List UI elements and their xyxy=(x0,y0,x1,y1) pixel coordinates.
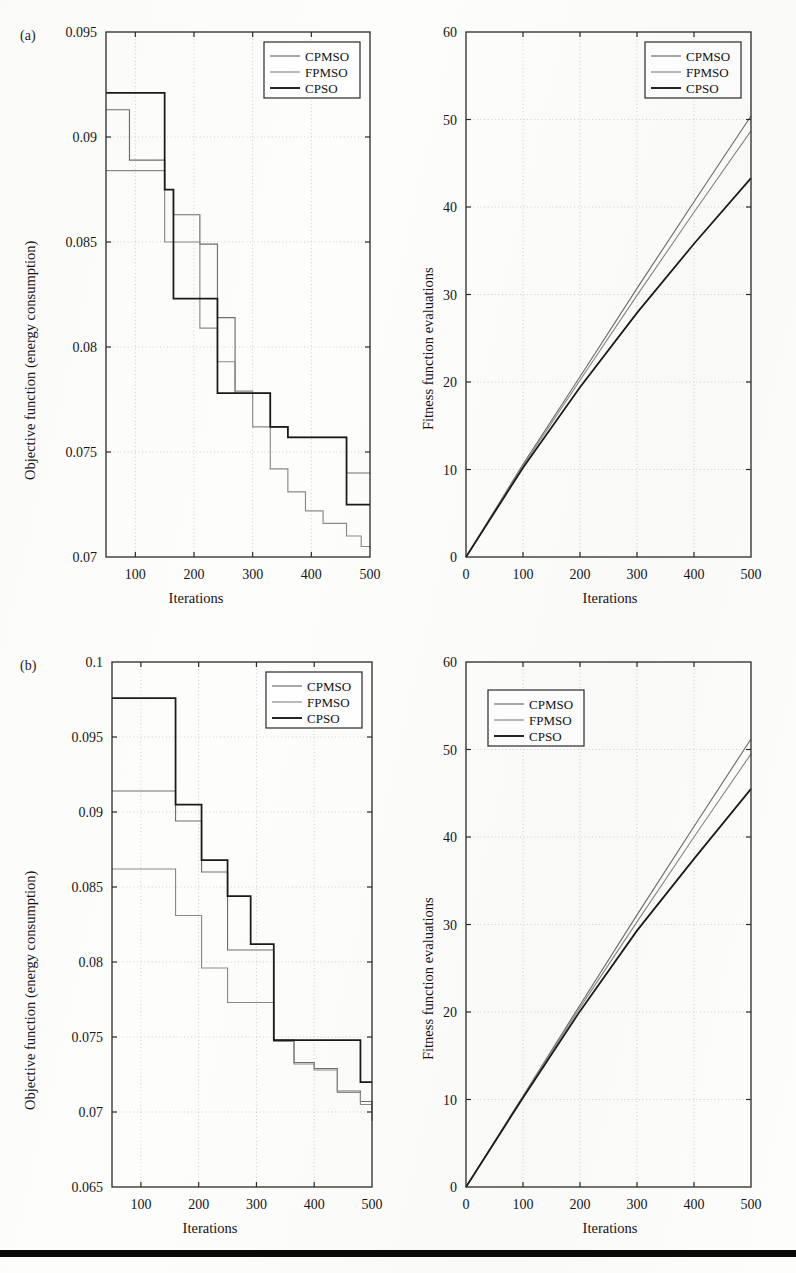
y-tick-label: 50 xyxy=(443,743,457,758)
panel-b-right: 01020304050600100200300400500CPMSOFPMSOC… xyxy=(398,630,796,1250)
legend-entry-label: CPSO xyxy=(686,81,719,96)
y-tick-label: 0.08 xyxy=(79,955,104,970)
y-tick-label: 10 xyxy=(443,1093,457,1108)
x-tick-label: 400 xyxy=(684,1197,705,1212)
panel-a-fitness-ylabel: Fitness function evaluations xyxy=(420,267,437,430)
x-tick-label: 400 xyxy=(301,567,322,582)
legend-entry-label: CPSO xyxy=(305,81,338,96)
y-tick-label: 0.09 xyxy=(73,130,98,145)
x-tick-label: 400 xyxy=(684,567,705,582)
x-tick-label: 200 xyxy=(184,567,205,582)
x-tick-label: 0 xyxy=(463,567,470,582)
legend-entry-label: CPMSO xyxy=(305,49,349,64)
legend-entry-label: FPMSO xyxy=(686,65,729,80)
legend-entry-label: FPMSO xyxy=(529,713,572,728)
y-tick-label: 60 xyxy=(443,25,457,40)
y-tick-label: 50 xyxy=(443,113,457,128)
panel-a-objective-ylabel: Objective function (energy consumption) xyxy=(22,241,39,480)
panel-a-fitness-xlabel: Iterations xyxy=(583,590,638,607)
chart-legend: CPMSOFPMSOCPSO xyxy=(645,42,741,98)
x-tick-label: 0 xyxy=(463,1197,470,1212)
x-tick-label: 500 xyxy=(360,567,381,582)
y-tick-label: 0.065 xyxy=(72,1180,104,1195)
y-tick-label: 0.095 xyxy=(72,730,104,745)
x-tick-label: 100 xyxy=(513,1197,534,1212)
legend-entry-label: CPSO xyxy=(529,729,562,744)
x-tick-label: 100 xyxy=(130,1197,151,1212)
x-tick-label: 300 xyxy=(246,1197,267,1212)
legend-entry-label: CPMSO xyxy=(307,679,351,694)
legend-entry-label: FPMSO xyxy=(305,65,348,80)
panel-a: (a) 0.070.0750.080.0850.090.095100200300… xyxy=(0,0,398,620)
panel-a-objective-xlabel: Iterations xyxy=(169,590,224,607)
x-tick-label: 300 xyxy=(242,567,263,582)
bottom-divider-rule xyxy=(0,1250,796,1257)
y-tick-label: 0 xyxy=(450,1180,457,1195)
y-tick-label: 0.07 xyxy=(73,550,98,565)
y-tick-label: 0.075 xyxy=(72,1030,104,1045)
y-tick-label: 0.1 xyxy=(86,655,104,670)
y-tick-label: 20 xyxy=(443,1005,457,1020)
y-tick-label: 0.08 xyxy=(73,340,98,355)
chart-panel-a-objective: 0.070.0750.080.0850.090.0951002003004005… xyxy=(0,0,398,620)
chart-panel-b-objective: 0.0650.070.0750.080.0850.090.0950.110020… xyxy=(0,630,398,1250)
y-tick-label: 10 xyxy=(443,463,457,478)
chart-legend: CPMSOFPMSOCPSO xyxy=(264,42,360,98)
y-tick-label: 60 xyxy=(443,655,457,670)
y-tick-label: 40 xyxy=(443,200,457,215)
panel-b: (b) 0.0650.070.0750.080.0850.090.0950.11… xyxy=(0,630,398,1250)
chart-panel-b-fitness: 01020304050600100200300400500CPMSOFPMSOC… xyxy=(398,630,796,1250)
y-tick-label: 0.09 xyxy=(79,805,104,820)
figure-root: (a) 0.070.0750.080.0850.090.095100200300… xyxy=(0,0,796,1273)
chart-legend: CPMSOFPMSOCPSO xyxy=(266,672,362,728)
x-tick-label: 400 xyxy=(304,1197,325,1212)
x-tick-label: 300 xyxy=(627,1197,648,1212)
panel-a-right: 01020304050600100200300400500CPMSOFPMSOC… xyxy=(398,0,796,620)
panel-b-fitness-ylabel: Fitness function evaluations xyxy=(420,897,437,1060)
x-tick-label: 100 xyxy=(513,567,534,582)
y-tick-label: 0.07 xyxy=(79,1105,104,1120)
legend-entry-label: CPMSO xyxy=(686,49,730,64)
y-tick-label: 40 xyxy=(443,830,457,845)
y-tick-label: 0.085 xyxy=(72,880,104,895)
y-tick-label: 30 xyxy=(443,918,457,933)
panel-b-objective-ylabel: Objective function (energy consumption) xyxy=(22,871,39,1110)
chart-panel-a-fitness: 01020304050600100200300400500CPMSOFPMSOC… xyxy=(398,0,796,620)
y-tick-label: 0.075 xyxy=(66,445,98,460)
y-tick-label: 20 xyxy=(443,375,457,390)
y-tick-label: 0.095 xyxy=(66,25,98,40)
x-tick-label: 200 xyxy=(188,1197,209,1212)
x-tick-label: 200 xyxy=(570,1197,591,1212)
x-tick-label: 300 xyxy=(627,567,648,582)
x-tick-label: 500 xyxy=(741,567,762,582)
y-tick-label: 0 xyxy=(450,550,457,565)
legend-entry-label: FPMSO xyxy=(307,695,350,710)
panel-b-fitness-xlabel: Iterations xyxy=(583,1220,638,1237)
x-tick-label: 200 xyxy=(570,567,591,582)
x-tick-label: 500 xyxy=(362,1197,383,1212)
x-tick-label: 500 xyxy=(741,1197,762,1212)
y-tick-label: 30 xyxy=(443,288,457,303)
legend-entry-label: CPSO xyxy=(307,711,340,726)
x-tick-label: 100 xyxy=(125,567,146,582)
y-tick-label: 0.085 xyxy=(66,235,98,250)
panel-b-objective-xlabel: Iterations xyxy=(183,1220,238,1237)
legend-entry-label: CPMSO xyxy=(529,697,573,712)
chart-legend: CPMSOFPMSOCPSO xyxy=(488,690,584,746)
